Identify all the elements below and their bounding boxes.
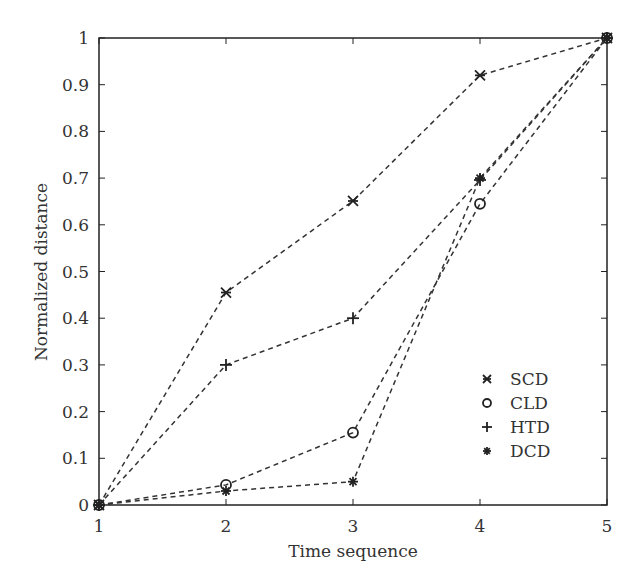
y-tick-label: 0.7 <box>62 168 89 188</box>
y-tick-label: 0.4 <box>62 308 89 328</box>
y-tick-label: 0.5 <box>62 262 89 282</box>
line-chart: 1234500.10.20.30.40.50.60.70.80.91 Time … <box>0 0 643 587</box>
y-tick-label: 0 <box>78 495 89 515</box>
y-tick-label: 0.1 <box>62 448 89 468</box>
legend-label: SCD <box>510 369 548 389</box>
y-tick-label: 1 <box>78 28 89 48</box>
x-tick-label: 2 <box>221 516 232 536</box>
series-htd <box>93 32 613 511</box>
y-tick-label: 0.6 <box>62 215 89 235</box>
x-axis-label: Time sequence <box>288 541 418 561</box>
legend: SCDCLDHTDDCD <box>482 369 550 461</box>
legend-label: CLD <box>510 393 548 413</box>
series-layer <box>93 32 613 511</box>
legend-item-htd: HTD <box>482 417 550 437</box>
legend-label: HTD <box>510 417 550 437</box>
legend-item-scd: SCD <box>483 369 548 389</box>
x-tick-label: 3 <box>348 516 359 536</box>
legend-item-cld: CLD <box>483 393 548 413</box>
x-tick-label: 5 <box>602 516 613 536</box>
series-cld <box>94 33 612 510</box>
x-tick-label: 4 <box>475 516 486 536</box>
y-tick-label: 0.9 <box>62 75 89 95</box>
legend-item-dcd: DCD <box>483 441 550 461</box>
y-axis-label: Normalized distance <box>31 183 51 361</box>
y-tick-label: 0.8 <box>62 121 89 141</box>
legend-label: DCD <box>510 441 550 461</box>
y-tick-label: 0.3 <box>62 355 89 375</box>
x-tick-label: 1 <box>94 516 105 536</box>
y-tick-label: 0.2 <box>62 402 89 422</box>
